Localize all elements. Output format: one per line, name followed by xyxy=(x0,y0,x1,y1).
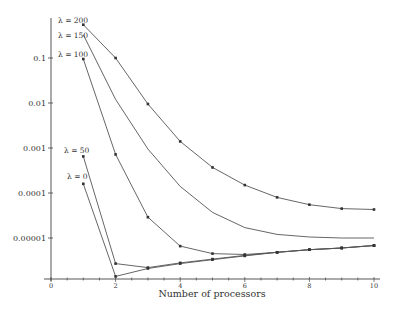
y-tick-label: 0.1 xyxy=(33,54,46,63)
data-point-marker xyxy=(308,203,311,206)
data-point-marker xyxy=(340,207,343,210)
data-point-marker xyxy=(373,244,376,247)
data-point-marker xyxy=(114,275,117,278)
line-chart: 0.10.010.0010.00010.000010246810 λ = 200… xyxy=(0,0,393,310)
series-label: λ = 100 xyxy=(58,50,88,59)
data-point-marker xyxy=(211,252,214,255)
data-point-marker xyxy=(114,262,117,265)
y-tick-label: 0.001 xyxy=(23,144,46,153)
data-point-marker xyxy=(244,255,247,258)
data-point-marker xyxy=(114,57,117,60)
series-label: λ = 50 xyxy=(64,146,90,155)
series-line xyxy=(83,184,374,277)
data-point-marker xyxy=(211,258,214,261)
series-label: λ = 0 xyxy=(67,172,88,181)
data-point-marker xyxy=(179,245,182,248)
x-tick-label: 8 xyxy=(307,282,311,290)
y-tick-label: 0.0001 xyxy=(18,189,46,198)
data-point-marker xyxy=(211,166,214,169)
data-point-marker xyxy=(147,216,150,219)
series-group xyxy=(82,23,375,277)
series-labels: λ = 200λ = 150λ = 100λ = 50λ = 0 xyxy=(58,16,90,181)
data-point-marker xyxy=(373,208,376,211)
y-tick-label: 0.00001 xyxy=(13,234,46,243)
series-label: λ = 200 xyxy=(58,16,88,25)
data-point-marker xyxy=(179,140,182,143)
series-line xyxy=(83,59,374,255)
data-point-marker xyxy=(308,248,311,251)
series-label: λ = 150 xyxy=(58,31,88,40)
y-tick-label: 0.01 xyxy=(28,99,46,108)
x-axis-title: Number of processors xyxy=(158,288,265,299)
data-point-marker xyxy=(276,251,279,254)
data-point-marker xyxy=(276,196,279,199)
data-point-marker xyxy=(244,184,247,187)
data-point-marker xyxy=(82,155,85,158)
data-point-marker xyxy=(340,247,343,250)
data-point-marker xyxy=(147,267,150,270)
data-point-marker xyxy=(82,183,85,186)
x-tick-label: 2 xyxy=(114,282,118,290)
data-point-marker xyxy=(179,262,182,265)
series-line xyxy=(83,156,374,267)
x-tick-label: 10 xyxy=(370,282,378,290)
data-point-marker xyxy=(147,103,150,106)
data-point-marker xyxy=(114,153,117,156)
x-tick-label: 0 xyxy=(49,282,53,290)
